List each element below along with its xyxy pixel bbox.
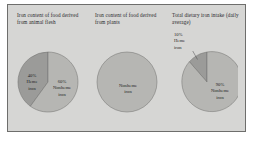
- pie-slice-nonheme: [97, 52, 157, 112]
- pie-label-nonheme-total-l3: iron: [205, 95, 235, 101]
- pie-label-heme-animal: 40% Heme iron: [21, 73, 43, 92]
- pie-label-nonheme-total: 90% Nonheme iron: [205, 82, 235, 101]
- pie-label-heme-total: 10% Heme iron: [174, 32, 196, 51]
- chart-panel-total-intake: Total dietary iron intake (daily average…: [166, 5, 247, 131]
- chart-title-plants: Iron content of food derived from plants: [88, 12, 166, 27]
- chart-panel-plants: Iron content of food derived from plants…: [88, 5, 166, 131]
- figure-panel: Iron content of food derived from animal…: [7, 4, 246, 132]
- pie-label-nonheme-animal: 60% Nonheme iron: [48, 79, 76, 98]
- pie-label-nonheme-plants: Nonheme iron: [107, 83, 149, 96]
- pie-svg-plants: [96, 51, 158, 113]
- chart-title-animal-flesh: Iron content of food derived from animal…: [8, 12, 88, 27]
- pie-label-heme-total-l3: iron: [174, 45, 196, 51]
- chart-title-total-intake: Total dietary iron intake (daily average…: [166, 12, 247, 27]
- chart-panel-animal-flesh: Iron content of food derived from animal…: [8, 5, 88, 131]
- pie-label-nonheme-animal-l3: iron: [48, 92, 76, 98]
- pie-label-heme-animal-l3: iron: [21, 86, 43, 92]
- pie-label-nonheme-plants-l2: iron: [107, 89, 149, 95]
- pie-chart-plants: [96, 51, 158, 113]
